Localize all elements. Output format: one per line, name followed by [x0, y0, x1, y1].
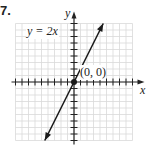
x-axis-label: x: [140, 83, 145, 98]
equation-label: y = 2x: [26, 24, 59, 39]
origin-point: [71, 79, 77, 85]
coordinate-plane: [0, 0, 157, 154]
origin-point-label: (0, 0): [80, 65, 106, 80]
y-axis-arrow-icon: [72, 12, 77, 19]
y-axis-label: y: [65, 6, 70, 21]
